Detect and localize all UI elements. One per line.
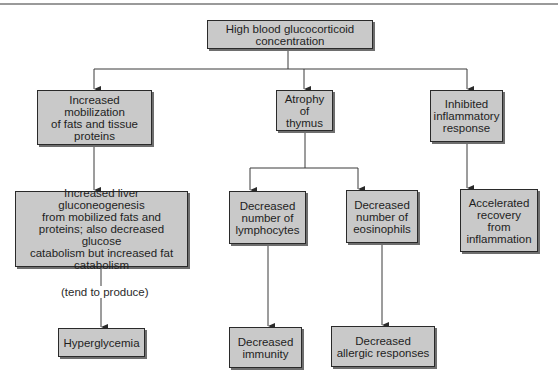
node-decreased-allergic: Decreased allergic responses — [331, 326, 435, 367]
node-inhibited-inflammatory: Inhibited inflammatory response — [430, 90, 503, 142]
node-decreased-immunity: Decreased immunity — [229, 327, 302, 368]
node-liver-gluconeogenesis: Increased liver gluconeogenesis from mob… — [15, 191, 188, 267]
node-decreased-lymphocytes: Decreased number of lymphocytes — [229, 191, 306, 244]
node-atrophy-thymus: Atrophy of thymus — [276, 90, 333, 131]
node-hyperglycemia: Hyperglycemia — [58, 328, 145, 357]
node-decreased-eosinophils: Decreased number of eosinophils — [346, 190, 418, 243]
node-increased-mobilization: Increased mobilization of fats and tissu… — [37, 90, 152, 145]
node-high-glucocorticoid: High blood glucocorticoid concentration — [207, 20, 373, 49]
node-accelerated-recovery: Accelerated recovery from inflammation — [460, 189, 538, 252]
edge-label-tend-to-produce: (tend to produce) — [60, 286, 150, 298]
